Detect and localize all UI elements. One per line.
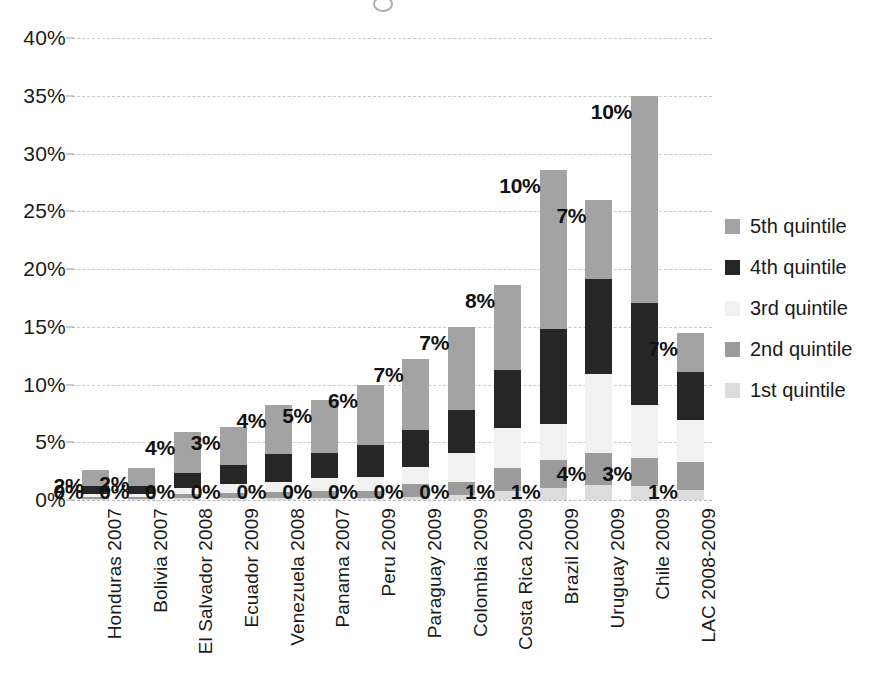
bar-top-value-label: 7%	[419, 331, 449, 355]
legend-swatch-icon	[725, 260, 740, 275]
bar-segment-5th-quintile[interactable]	[677, 333, 704, 372]
bar-top-value-label: 6%	[328, 389, 358, 413]
legend-label: 5th quintile	[750, 215, 847, 238]
y-axis-tick-mark	[66, 269, 74, 270]
bar-top-value-label: 7%	[374, 363, 404, 387]
gridline	[72, 96, 712, 97]
legend-item[interactable]: 3rd quintile	[725, 297, 852, 320]
bar-segment-4th-quintile[interactable]	[448, 410, 475, 453]
legend-item[interactable]: 5th quintile	[725, 215, 852, 238]
bar-segment-4th-quintile[interactable]	[357, 445, 384, 477]
bar-stack[interactable]	[402, 359, 429, 500]
bar-segment-1st-quintile[interactable]	[585, 485, 612, 500]
bar-top-value-label: 10%	[499, 174, 540, 198]
y-axis-tick-label: 35%	[23, 84, 66, 108]
y-axis-tick-label: 40%	[23, 26, 66, 50]
bar-segment-4th-quintile[interactable]	[265, 454, 292, 482]
x-axis-category-label: LAC 2008-2009	[698, 508, 720, 642]
bar-segment-4th-quintile[interactable]	[540, 329, 567, 424]
bar-segment-3rd-quintile[interactable]	[494, 428, 521, 467]
x-axis-category-label: Colombia 2009	[470, 508, 492, 637]
bar-top-value-label: 10%	[591, 100, 632, 124]
gridline	[72, 269, 712, 270]
y-axis-tick-mark	[66, 442, 74, 443]
bar-segment-5th-quintile[interactable]	[631, 96, 658, 303]
gridline	[72, 327, 712, 328]
bar-segment-3rd-quintile[interactable]	[585, 374, 612, 453]
page-artifact-glyph	[373, 0, 393, 12]
plot-area: 2%2%4%3%4%5%6%7%7%8%10%7%10%7%0%0%0%0%0%…	[72, 38, 712, 500]
bar-stack[interactable]	[585, 200, 612, 500]
bar-segment-4th-quintile[interactable]	[585, 279, 612, 374]
x-axis-category-label: Paraguay 2009	[424, 508, 446, 638]
y-axis-tick-mark	[66, 153, 74, 154]
legend-item[interactable]: 2nd quintile	[725, 338, 852, 361]
legend-label: 2nd quintile	[750, 338, 852, 361]
bar-segment-5th-quintile[interactable]	[448, 327, 475, 410]
bar-bottom-value-label: 4%	[556, 462, 586, 486]
x-axis-category-label: Uruguay 2009	[607, 508, 629, 629]
x-axis-category-label: Panama 2007	[332, 508, 354, 627]
y-axis-tick-mark	[66, 326, 74, 327]
x-axis-category-label: Ecuador 2009	[241, 508, 263, 628]
y-axis-tick-mark	[66, 38, 74, 39]
legend-item[interactable]: 1st quintile	[725, 379, 852, 402]
bar-segment-4th-quintile[interactable]	[494, 370, 521, 429]
bar-segment-5th-quintile[interactable]	[540, 170, 567, 329]
chart-legend: 5th quintile4th quintile3rd quintile2nd …	[725, 215, 852, 402]
bar-top-value-label: 4%	[236, 409, 266, 433]
bar-segment-5th-quintile[interactable]	[357, 385, 384, 445]
y-axis: 0%5%10%15%20%25%30%35%40%	[0, 38, 66, 500]
bar-segment-4th-quintile[interactable]	[311, 453, 338, 478]
x-axis-category-label: Peru 2009	[378, 508, 400, 597]
bar-segment-3rd-quintile[interactable]	[677, 420, 704, 462]
legend-swatch-icon	[725, 301, 740, 316]
x-axis-category-label: Costa Rica 2009	[515, 508, 537, 650]
bar-segment-4th-quintile[interactable]	[402, 430, 429, 467]
bar-top-value-label: 4%	[145, 436, 175, 460]
y-axis-tick-label: 30%	[23, 142, 66, 166]
x-axis-category-label: Chile 2009	[652, 508, 674, 600]
legend-label: 3rd quintile	[750, 297, 848, 320]
bar-top-value-label: 3%	[191, 431, 221, 455]
bar-segment-5th-quintile[interactable]	[402, 359, 429, 429]
bar-top-value-label: 5%	[282, 404, 312, 428]
x-axis-category-label: El Salvador 2008	[195, 508, 217, 654]
x-axis-category-label: Venezuela 2008	[287, 508, 309, 646]
gridline	[72, 211, 712, 212]
bar-segment-3rd-quintile[interactable]	[448, 453, 475, 482]
y-axis-tick-mark	[66, 211, 74, 212]
y-axis-tick-mark	[66, 500, 74, 501]
y-axis-tick-mark	[66, 384, 74, 385]
x-axis-category-label: Brazil 2009	[561, 508, 583, 604]
legend-swatch-icon	[725, 219, 740, 234]
bar-stack[interactable]	[494, 285, 521, 500]
legend-label: 1st quintile	[750, 379, 846, 402]
y-axis-tick-label: 5%	[35, 430, 66, 454]
legend-swatch-icon	[725, 342, 740, 357]
y-axis-tick-label: 25%	[23, 199, 66, 223]
bar-stack[interactable]	[631, 96, 658, 500]
legend-item[interactable]: 4th quintile	[725, 256, 852, 279]
bar-top-value-label: 7%	[648, 337, 678, 361]
legend-label: 4th quintile	[750, 256, 847, 279]
bar-stack[interactable]	[677, 333, 704, 500]
bar-segment-5th-quintile[interactable]	[494, 285, 521, 369]
x-axis: Honduras 2007Bolivia 2007El Salvador 200…	[72, 500, 712, 699]
bar-top-value-label: 8%	[465, 289, 495, 313]
bar-segment-5th-quintile[interactable]	[585, 200, 612, 280]
bar-segment-4th-quintile[interactable]	[677, 372, 704, 421]
bar-segment-3rd-quintile[interactable]	[540, 424, 567, 460]
bar-segment-1st-quintile[interactable]	[540, 488, 567, 500]
x-axis-category-label: Honduras 2007	[104, 508, 126, 639]
x-axis-category-label: Bolivia 2007	[150, 508, 172, 613]
gridline	[72, 154, 712, 155]
y-axis-tick-label: 20%	[23, 257, 66, 281]
y-axis-tick-label: 15%	[23, 315, 66, 339]
bar-segment-2nd-quintile[interactable]	[677, 462, 704, 490]
gridline	[72, 38, 712, 39]
bar-segment-3rd-quintile[interactable]	[631, 405, 658, 458]
bar-segment-1st-quintile[interactable]	[677, 490, 704, 500]
bar-stack[interactable]	[448, 327, 475, 500]
legend-swatch-icon	[725, 383, 740, 398]
